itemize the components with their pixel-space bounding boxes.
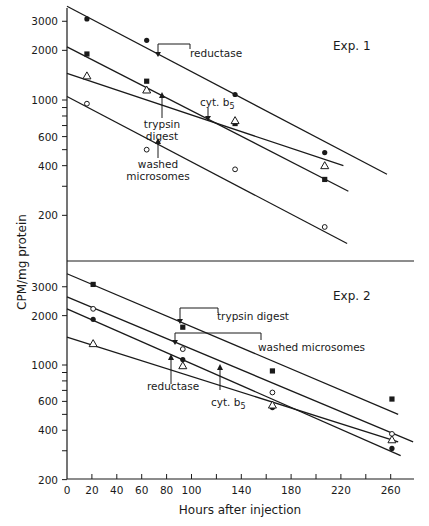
y-tick-label: 1000 (31, 359, 58, 371)
x-tick-label: 60 (135, 484, 148, 496)
open-triangle-marker (231, 117, 239, 124)
y-tick-label: 3000 (31, 15, 58, 27)
y-tick-label: 400 (38, 160, 58, 172)
e1-trypsin-label-1: trypsin (144, 118, 180, 130)
exp1-label: Exp. 1 (333, 39, 371, 53)
open-triangle-marker (268, 401, 276, 408)
x-tick-label: 180 (281, 484, 301, 496)
open-triangle-marker (89, 340, 97, 347)
e1-washed-label-2: microsomes (126, 170, 189, 182)
open-triangle-marker (83, 72, 91, 79)
filled-square-marker (144, 79, 149, 84)
open-circle-marker (233, 167, 238, 172)
filled-square-marker (91, 282, 96, 287)
filled-circle-marker (84, 16, 89, 21)
x-axis-title: Hours after injection (179, 503, 301, 517)
open-circle-marker (144, 147, 149, 152)
filled-square-marker (270, 368, 275, 373)
chart: 2004006001000200030002004006001000200030… (0, 0, 429, 526)
e2-washed-label: washed microsomes (258, 341, 365, 353)
x-tick-label: 20 (85, 484, 98, 496)
filled-square-marker (389, 396, 394, 401)
filled-circle-marker (389, 446, 394, 451)
y-tick-label: 400 (38, 424, 58, 436)
exp2-arrowheads (168, 319, 223, 370)
fit-line (67, 309, 401, 456)
filled-square-marker (322, 177, 327, 182)
open-circle-marker (91, 306, 96, 311)
open-circle-marker (322, 225, 327, 230)
y-tick-label: 2000 (31, 44, 58, 56)
y-axis-title: CPM/mg protein (15, 214, 29, 310)
x-tick-label: 220 (331, 484, 351, 496)
e1-reductase-label: reductase (190, 47, 242, 59)
trypsin-bracket (180, 308, 218, 322)
y-tick-label: 2000 (31, 310, 58, 322)
reductase-bracket (158, 44, 190, 55)
filled-square-marker (180, 325, 185, 330)
open-triangle-marker (321, 162, 329, 169)
filled-circle-marker (232, 92, 237, 97)
y-tick-label: 1000 (31, 94, 58, 106)
x-tick-label: 140 (231, 484, 251, 496)
e2-trypsin-label: trypsin digest (217, 310, 289, 322)
y-tick-label: 200 (38, 474, 58, 486)
exp2-label: Exp. 2 (333, 289, 371, 303)
data-points (83, 16, 396, 451)
y-tick-label: 600 (38, 395, 58, 407)
open-circle-marker (85, 101, 90, 106)
open-circle-marker (180, 347, 185, 352)
x-tick-label: 80 (160, 484, 173, 496)
x-tick-label: 0 (64, 484, 71, 496)
e2-cyt-label: cyt. b5 (211, 396, 246, 411)
open-triangle-marker (179, 362, 187, 369)
y-tick-label: 200 (38, 209, 58, 221)
e1-trypsin-label-2: digest (146, 130, 178, 142)
fit-line (67, 6, 387, 174)
filled-square-marker (84, 51, 89, 56)
fit-lines (67, 6, 413, 455)
x-tick-label: 100 (181, 484, 201, 496)
e1-cyt-label: cyt. b5 (200, 96, 235, 111)
x-tick-label: 260 (381, 484, 401, 496)
open-circle-marker (270, 390, 275, 395)
e2-reductase-label: reductase (147, 380, 199, 392)
filled-circle-marker (322, 150, 327, 155)
fit-line (67, 73, 343, 165)
filled-circle-marker (144, 38, 149, 43)
y-tick-label: 600 (38, 131, 58, 143)
y-tick-label: 3000 (31, 281, 58, 293)
filled-circle-marker (91, 317, 96, 322)
x-tick-label: 40 (110, 484, 123, 496)
e1-washed-label-1: washed (138, 158, 178, 170)
